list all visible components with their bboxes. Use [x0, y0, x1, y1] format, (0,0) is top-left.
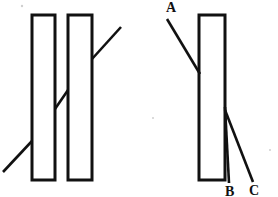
ray-label-c: C — [249, 183, 259, 197]
emergent-ray-upper-right — [92, 27, 121, 59]
ray-between-slabs — [55, 90, 68, 109]
incident-ray-a — [167, 19, 200, 74]
scan-speck — [152, 117, 154, 119]
ray-label-a: A — [166, 0, 177, 15]
diagram-canvas: A B C — [0, 0, 278, 197]
optics-ray-diagram: A B C — [0, 0, 278, 197]
glass-slab-1 — [32, 15, 55, 180]
glass-slab-2 — [68, 15, 92, 180]
scan-speck — [269, 149, 271, 151]
right-panel-single-slab-diagram: A B C — [166, 0, 259, 197]
scan-speck — [21, 5, 23, 7]
incident-ray-lower-left — [3, 141, 32, 172]
ray-label-b: B — [225, 184, 234, 197]
left-panel-two-slab-diagram — [3, 15, 121, 180]
glass-slab-3 — [199, 15, 225, 180]
